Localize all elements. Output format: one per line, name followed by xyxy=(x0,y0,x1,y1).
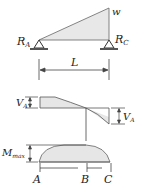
moment-diagram xyxy=(39,145,110,162)
point-a-label: A xyxy=(32,173,41,186)
span-label: L xyxy=(70,56,78,69)
point-c-label: C xyxy=(104,173,113,186)
shear-right-label: VA xyxy=(123,111,135,123)
beam-diagram: w RA RC L VA VA xyxy=(0,0,148,194)
triangular-load xyxy=(39,8,109,40)
shear-left-label: VA xyxy=(16,97,28,109)
moment-max-label: Mmax xyxy=(1,147,26,159)
left-reaction-label: RA xyxy=(16,35,30,49)
load-label: w xyxy=(112,6,121,17)
point-markers xyxy=(40,163,111,172)
shear-diagram-fill xyxy=(40,97,109,124)
left-support-icon xyxy=(30,40,48,50)
right-reaction-label: RC xyxy=(114,33,129,47)
point-b-label: B xyxy=(80,173,89,186)
